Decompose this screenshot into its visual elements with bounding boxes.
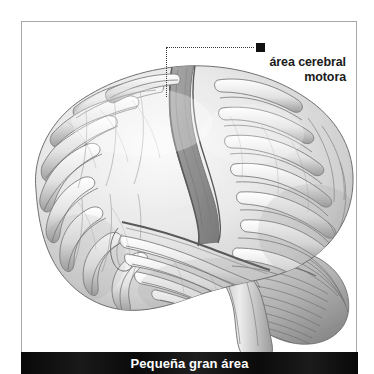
- leader-line-vertical: [166, 47, 168, 97]
- caption-title: Pequeña gran área: [130, 356, 248, 371]
- caption-bar: Pequeña gran área: [21, 352, 358, 374]
- callout-label-line2: motora: [186, 70, 346, 85]
- motor-area-callout-label: área cerebral motora: [186, 55, 346, 85]
- figure-frame: área cerebral motora: [21, 21, 357, 374]
- leader-line-horizontal: [166, 47, 254, 49]
- callout-label-line1: área cerebral: [186, 55, 346, 70]
- motor-area-bullet-icon: [256, 43, 265, 52]
- figure-root: área cerebral motora Pequeña gran área: [0, 0, 374, 374]
